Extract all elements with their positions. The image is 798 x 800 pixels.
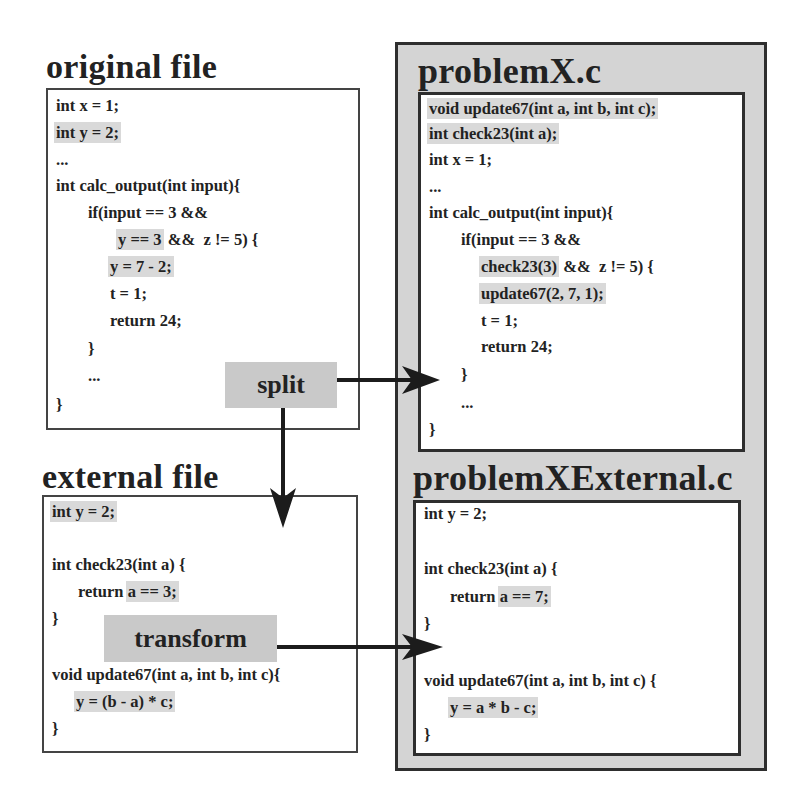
highlighted-code: void update67(int a, int b, int c); bbox=[427, 98, 658, 119]
code-line: y = 7 - 2; bbox=[110, 257, 174, 277]
code-line: } bbox=[424, 725, 431, 745]
highlighted-code: update67(2, 7, 1); bbox=[479, 283, 606, 304]
code-line: ... bbox=[461, 393, 473, 413]
code-line: } bbox=[52, 609, 59, 629]
code-line: } bbox=[52, 719, 59, 739]
highlighted-code: y = a * b - c; bbox=[448, 697, 538, 718]
code-line: void update67(int a, int b, int c); bbox=[429, 99, 658, 119]
cropped-top-edge bbox=[0, 0, 798, 10]
code-line: y = (b - a) * c; bbox=[76, 692, 175, 712]
highlighted-code: y = 7 - 2; bbox=[108, 256, 174, 277]
problemx-box: void update67(int a, int b, int c); int … bbox=[418, 92, 745, 452]
highlighted-code: int check23(int a); bbox=[427, 123, 559, 144]
code-line: int check23(int a); bbox=[429, 124, 559, 144]
code-line: ... bbox=[88, 366, 100, 386]
code-line: int y = 2; bbox=[56, 123, 121, 143]
code-line: int y = 2; bbox=[424, 504, 487, 524]
problemx-title: problemX.c bbox=[418, 54, 601, 88]
code-line: int check23(int a) { bbox=[424, 559, 557, 579]
problemx-external-title: problemXExternal.c bbox=[413, 461, 733, 495]
code-line: if(input == 3 && bbox=[461, 230, 581, 250]
code-line: if(input == 3 && bbox=[88, 203, 208, 223]
code-line: void update67(int a, int b, int c) { bbox=[424, 671, 657, 691]
code-line: t = 1; bbox=[481, 311, 518, 331]
code-line: check23(3) && z != 5) { bbox=[481, 257, 654, 277]
transform-label: transform bbox=[104, 615, 277, 662]
code-line: return a == 3; bbox=[78, 582, 179, 602]
code-line: } bbox=[56, 395, 63, 415]
code-line: y == 3 && z != 5) { bbox=[118, 230, 258, 250]
code-line: } bbox=[88, 339, 95, 359]
code-line: } bbox=[424, 614, 431, 634]
code-line: t = 1; bbox=[110, 284, 147, 304]
split-label: split bbox=[225, 362, 337, 408]
code-line: } bbox=[429, 420, 436, 440]
problemx-external-box: int y = 2; int check23(int a) { return a… bbox=[413, 500, 741, 756]
external-file-title: external file bbox=[42, 460, 219, 494]
original-file-title: original file bbox=[46, 50, 217, 84]
highlighted-code: a == 3; bbox=[126, 581, 179, 602]
code-line: void update67(int a, int b, int c){ bbox=[52, 665, 280, 685]
highlighted-code: int y = 2; bbox=[54, 122, 121, 143]
code-line: int y = 2; bbox=[52, 502, 117, 522]
code-line: int x = 1; bbox=[429, 150, 492, 170]
code-line: ... bbox=[429, 177, 441, 197]
code-line: update67(2, 7, 1); bbox=[481, 284, 606, 304]
code-line: return a == 7; bbox=[450, 587, 551, 607]
highlighted-code: y == 3 bbox=[116, 229, 164, 250]
code-line: int check23(int a) { bbox=[52, 555, 185, 575]
code-line: ... bbox=[56, 150, 68, 170]
code-line: return 24; bbox=[481, 337, 553, 357]
code-line: int calc_output(int input){ bbox=[56, 176, 240, 196]
code-line: } bbox=[461, 365, 468, 385]
code-line: int calc_output(int input){ bbox=[429, 203, 613, 223]
code-line: y = a * b - c; bbox=[450, 698, 538, 718]
highlighted-code: check23(3) bbox=[479, 256, 559, 277]
highlighted-code: int y = 2; bbox=[50, 501, 117, 522]
code-line: return 24; bbox=[110, 311, 182, 331]
highlighted-code: y = (b - a) * c; bbox=[74, 691, 175, 712]
code-line: int x = 1; bbox=[56, 96, 119, 116]
highlighted-code: a == 7; bbox=[498, 586, 551, 607]
